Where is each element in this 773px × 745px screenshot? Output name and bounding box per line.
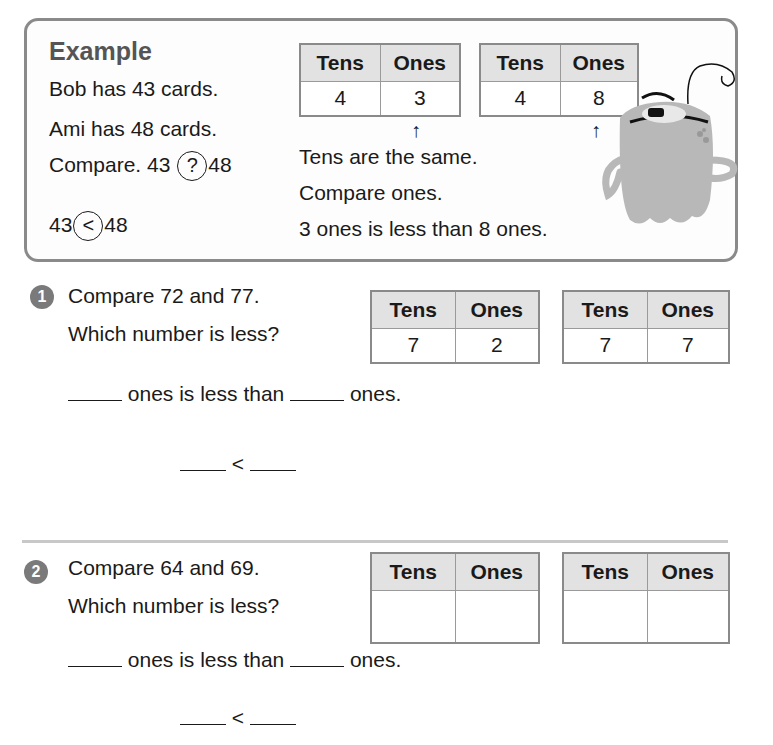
header-tens: Tens (300, 44, 380, 81)
header-ones: Ones (455, 553, 539, 590)
explanation-line-2: Compare ones. (299, 181, 443, 205)
cell-ones: 3 (380, 81, 460, 116)
header-tens: Tens (563, 553, 647, 590)
header-tens: Tens (563, 291, 647, 328)
less-than-circle: < (73, 211, 103, 241)
header-tens: Tens (480, 44, 560, 81)
answer-blank[interactable] (68, 383, 122, 401)
answer-blank[interactable] (250, 453, 296, 471)
cell-tens: 4 (480, 81, 560, 116)
cell-ones[interactable] (647, 590, 729, 643)
problem-2-ones-sentence: ones is less than ones. (68, 648, 401, 672)
compare-suffix: 48 (208, 153, 231, 176)
cell-tens[interactable] (371, 590, 455, 643)
cell-ones: 2 (455, 328, 539, 363)
answer-blank[interactable] (250, 707, 296, 725)
cell-ones: 7 (647, 328, 729, 363)
cell-tens: 7 (371, 328, 455, 363)
sentence-text: ones is less than (122, 648, 290, 671)
cell-ones[interactable] (455, 590, 539, 643)
answer-blank[interactable] (180, 453, 226, 471)
header-ones: Ones (647, 291, 729, 328)
sentence-text: ones. (344, 382, 401, 405)
problem-number-badge: 2 (24, 560, 48, 584)
explanation-line-1: Tens are the same. (299, 145, 478, 169)
less-than-symbol: < (232, 706, 244, 729)
example-title: Example (49, 37, 152, 66)
example-place-value-table-43: TensOnes 43 (299, 43, 461, 117)
header-tens: Tens (371, 553, 455, 590)
problem-2-place-value-table-a: TensOnes (370, 552, 540, 644)
cell-tens[interactable] (563, 590, 647, 643)
answer-blank[interactable] (68, 649, 122, 667)
less-than-symbol: < (232, 452, 244, 475)
question-circle: ? (177, 151, 207, 181)
problem-1-place-value-table-b: TensOnes 77 (562, 290, 730, 364)
example-answer-line: 43<48 (49, 211, 128, 241)
cell-tens: 4 (300, 81, 380, 116)
answer-left: 43 (49, 213, 72, 236)
section-divider (22, 540, 728, 543)
answer-blank[interactable] (290, 383, 344, 401)
problem-number-badge: 1 (30, 285, 54, 309)
problem-2-place-value-table-b: TensOnes (562, 552, 730, 644)
problem-2-line-1: Compare 64 and 69. (68, 556, 259, 580)
problem-1-less-than-sentence: < (180, 452, 296, 476)
header-ones: Ones (647, 553, 729, 590)
example-compare-line: Compare. 43 ?48 (49, 151, 232, 181)
problem-1-ones-sentence: ones is less than ones. (68, 382, 401, 406)
problem-1-line-2: Which number is less? (68, 322, 279, 346)
problem-1-line-1: Compare 72 and 77. (68, 284, 259, 308)
explanation-line-3: 3 ones is less than 8 ones. (299, 217, 548, 241)
header-ones: Ones (380, 44, 460, 81)
compare-prefix: Compare. 43 (49, 153, 170, 176)
answer-blank[interactable] (290, 649, 344, 667)
sentence-text: ones. (344, 648, 401, 671)
problem-2-less-than-sentence: < (180, 706, 296, 730)
header-ones: Ones (455, 291, 539, 328)
cell-tens: 7 (563, 328, 647, 363)
answer-right: 48 (104, 213, 127, 236)
sentence-text: ones is less than (122, 382, 290, 405)
problem-2-line-2: Which number is less? (68, 594, 279, 618)
problem-1-place-value-table-a: TensOnes 72 (370, 290, 540, 364)
monster-mascot-icon (590, 60, 740, 230)
example-line-ami: Ami has 48 cards. (49, 117, 217, 141)
example-line-bob: Bob has 43 cards. (49, 77, 218, 101)
up-arrow-icon: ↑ (411, 119, 421, 142)
answer-blank[interactable] (180, 707, 226, 725)
header-tens: Tens (371, 291, 455, 328)
